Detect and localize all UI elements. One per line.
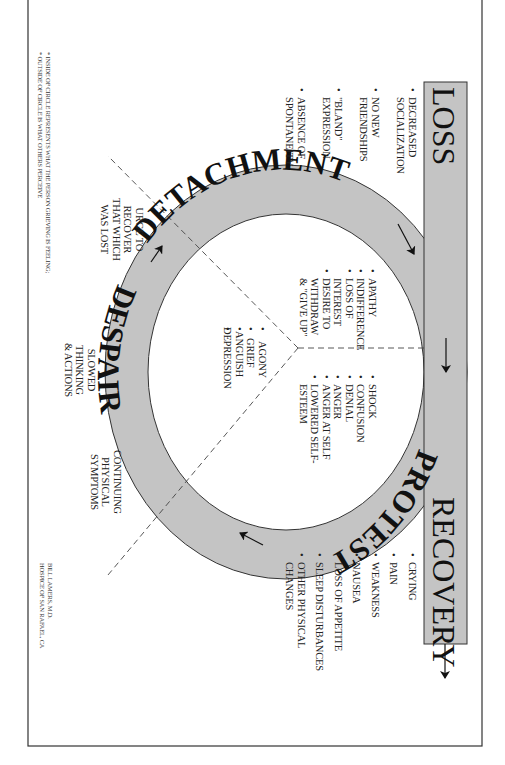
list-item: LOSS OF APPETITE [333,553,345,671]
list-item: AGONY [257,327,269,389]
list-item: ANGER AT SELF [321,375,333,463]
footnote-outside: * OUTSIDE OF CIRCLE IS WHAT OTHERS PERCE… [36,52,44,273]
footnotes: * INSIDE OF CIRCLE REPRESENTS WHAT THE P… [36,52,52,273]
inside-protest-list: SHOCK CONFUSION DENIAL ANGER ANGER AT SE… [298,375,379,463]
list-item: CONFUSION [355,375,367,463]
credit-author: BILL LAMERS, M.D. [46,563,54,648]
recovery-symptoms-list: CRYING PAIN WEAKNESS NAUSEA LOSS OF APPE… [284,553,418,671]
list-item: LOSS OFINTEREST [332,269,355,350]
grief-cycle-diagram: DETACHMENT PROTEST DESPAIR LOSS RECOVERY… [0,0,505,765]
credit: BILL LAMERS, M.D. HOSPICE OF SAN RAFAEL,… [38,563,54,648]
list-item: APATHY [367,269,379,350]
slowed-thinking-label: SLOWED THINKING & ACTIONS [63,343,98,397]
list-item: DENIAL [344,375,356,463]
inside-detachment-list: APATHY INDIFFERENCE LOSS OFINTEREST DESI… [298,269,379,350]
inside-despair-list: AGONY GRIEF ANGUISH DEPRESSION [222,327,268,389]
list-item: NAUSEA [351,553,363,671]
loss-symptoms-list: DECREASEDSOCIALIZATION NO NEWFRIENDSHIPS… [284,88,418,174]
list-item: SLEEP DISTURBANCES [314,553,326,671]
loss-label: LOSS [426,87,462,165]
credit-org: HOSPICE OF SAN RAFAEL, CA [38,563,46,648]
list-item: "BLAND"EXPRESSION [321,88,344,174]
list-item: ANGER [332,375,344,463]
list-item: CRYING [407,553,419,671]
recovery-label: RECOVERY [426,497,462,668]
list-item: LOWERED SELF-ESTEEM [298,375,321,463]
list-item: DESIRE TOWITHDRAW& "GIVE UP" [298,269,333,350]
continuing-physical-symptoms-label: CONTINUING PHYSICAL SYMPTOMS [89,450,124,514]
list-item: OTHER PHYSICALCHANGES [284,553,307,671]
list-item: ABSENCE OFSPONTANEITY [284,88,307,174]
list-item: DEPRESSION [222,327,234,389]
urge-to-recover-label: URGE TO RECOVER THAT WHICH WAS LOST [99,198,145,261]
list-item: NO NEWFRIENDSHIPS [358,88,381,174]
list-item: INDIFFERENCE [355,269,367,350]
list-item: GRIEF [245,327,257,389]
list-item: ANGUISH [234,327,246,389]
list-item: WEAKNESS [370,553,382,671]
list-item: PAIN [388,553,400,671]
list-item: DECREASEDSOCIALIZATION [395,88,418,174]
list-item: SHOCK [367,375,379,463]
footnote-inside: * INSIDE OF CIRCLE REPRESENTS WHAT THE P… [44,52,52,273]
